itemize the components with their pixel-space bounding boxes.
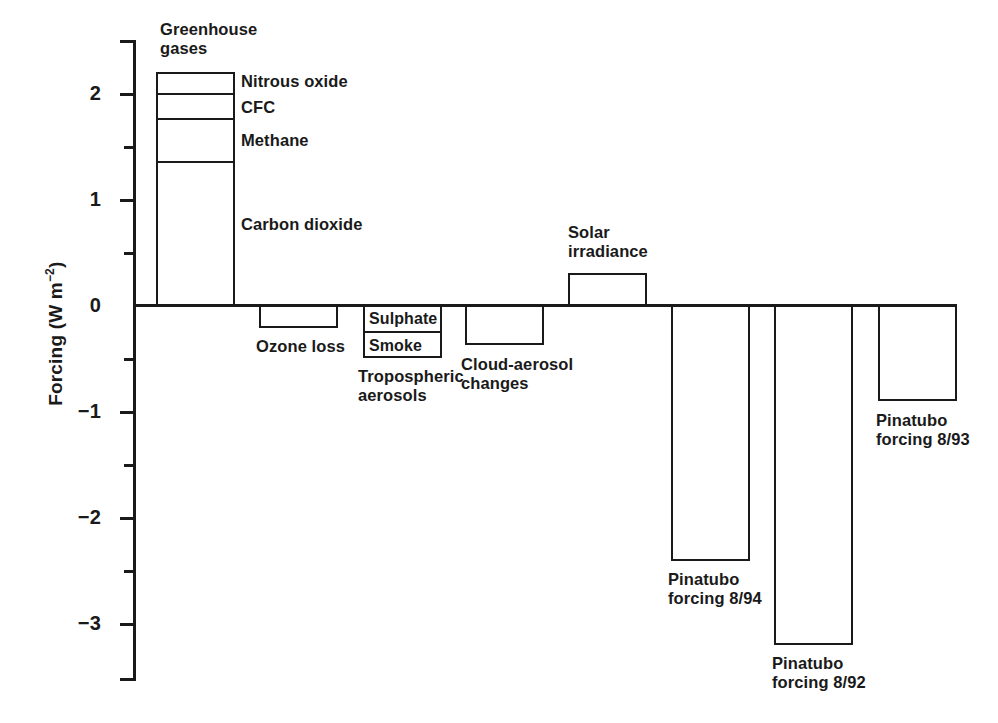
y-axis-tick-neg2 [120,517,136,520]
segment-methane [156,120,235,163]
label-pinatubo-forcing-894: Pinatubo forcing 8/94 [668,570,762,608]
y-tick-label-neg3: −3 [26,613,101,633]
bar-pinatubo-forcing-892 [774,305,853,645]
bar-greenhouse-gases [156,72,235,306]
label-methane: Methane [241,131,309,150]
label-greenhouse-gases: Greenhouse gases [160,20,257,58]
y-axis-tick-neg1 [120,411,136,414]
label-carbon-dioxide: Carbon dioxide [241,215,363,234]
label-pinatubo-forcing-893: Pinatubo forcing 8/93 [876,411,970,449]
label-sulphate: Sulphate [369,309,437,328]
forcing-bar-chart: 2 1 0 −1 −2 −3 Forcing (W m−2) Greenhous… [0,0,998,723]
label-smoke: Smoke [369,336,422,355]
bar-pinatubo-forcing-893 [878,305,957,401]
bar-ozone-loss [259,305,338,328]
y-axis-tick-minor-neg2.5 [124,570,136,573]
y-axis-tick-minor-neg1.5 [124,464,136,467]
y-axis-title: Forcing (W m−2) [43,224,66,444]
y-tick-label-neg2: −2 [26,507,101,527]
y-axis-tick-1 [120,199,136,202]
label-cloud-aerosol-changes: Cloud-aerosol changes [461,355,573,393]
label-cfc: CFC [241,98,275,117]
segment-nitrous-oxide [156,72,235,95]
label-tropospheric-aerosols: Tropospheric aerosols [358,367,464,405]
y-axis-tick-minor-neg0.5 [124,358,136,361]
bar-solar-irradiance [568,273,647,306]
y-axis-tick-neg3 [120,623,136,626]
bar-cloud-aerosol-changes [465,305,544,345]
y-axis-tick-minor-0.5 [124,252,136,255]
y-tick-label-2: 2 [26,83,101,103]
y-tick-label-1: 1 [26,189,101,209]
label-nitrous-oxide: Nitrous oxide [241,72,348,91]
label-solar-irradiance: Solar irradiance [568,223,648,261]
y-axis-title-text: Forcing (W m [45,282,66,406]
y-axis-tick-minor-1.5 [124,146,136,149]
y-axis-tick-bottom-cap [120,678,136,681]
y-axis-title-paren: ) [45,261,66,268]
bar-pinatubo-forcing-894 [671,305,750,561]
label-pinatubo-forcing-892: Pinatubo forcing 8/92 [772,654,866,692]
label-ozone-loss: Ozone loss [256,337,345,356]
y-axis-tick-top-cap [120,40,136,43]
y-axis-tick-2 [120,93,136,96]
segment-cfc [156,95,235,120]
y-axis-title-exponent: −2 [43,268,57,282]
